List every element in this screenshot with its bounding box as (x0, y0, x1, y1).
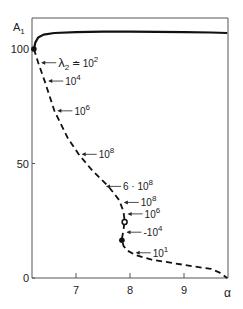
x-axis-label: α (224, 286, 231, 300)
annotation: 108 (82, 146, 115, 160)
annotation: 104 (48, 73, 81, 87)
arrowhead-icon (127, 230, 131, 234)
annotation-sup: 4 (76, 73, 81, 82)
annotation-main: 10 (65, 76, 77, 87)
annotation: -104 (127, 224, 163, 238)
dashed-series-line (34, 49, 227, 278)
chart: 789050100 λ2 ≐ 1021041061086 · 108108106… (0, 0, 243, 309)
annotation: 106 (57, 103, 90, 117)
annotation-label: 104 (65, 73, 81, 87)
annotation: 6 · 108 (106, 178, 154, 192)
annotations-group: λ2 ≐ 1021041061086 · 108108106-104101 (41, 55, 169, 259)
solid-series-line (34, 32, 227, 49)
annotation-sup: 2 (94, 55, 99, 64)
annotation-main: 10 (74, 106, 86, 117)
annotation-label: 108 (99, 146, 115, 160)
annotation-label: 101 (153, 245, 169, 259)
arrowhead-icon (124, 200, 128, 204)
arrowhead-icon (136, 251, 140, 255)
annotation-label: 106 (145, 206, 161, 220)
annotation-main: 10 (153, 248, 165, 259)
annotation-main: -10 (144, 227, 159, 238)
annotation-label: -104 (144, 224, 163, 238)
annotation: 108 (124, 194, 157, 208)
start-point (31, 46, 37, 52)
annotation-label: 6 · 108 (123, 178, 154, 192)
annotation-rest: ≐ 10 (69, 58, 94, 69)
open-circle (122, 219, 127, 224)
arrowhead-icon (41, 61, 45, 65)
annotation-label: 106 (74, 103, 90, 117)
annotation-sup: 6 (156, 206, 161, 215)
annotation: 106 (128, 206, 161, 220)
annotation-sup: 1 (164, 245, 169, 254)
annotation-sup: 8 (110, 146, 115, 155)
annotation-sup: 8 (149, 178, 154, 187)
y-tick-label: 50 (17, 158, 29, 170)
arrowhead-icon (48, 79, 52, 83)
y-axis-label: A1 (13, 21, 25, 36)
annotation-label: 108 (141, 194, 157, 208)
annotation-main: 10 (99, 149, 111, 160)
annotation-main: 10 (145, 209, 157, 220)
x-tick-label: 9 (181, 284, 187, 296)
x-tick-label: 8 (127, 284, 133, 296)
annotation-main: 6 · 10 (123, 181, 149, 192)
y-tick-label: 0 (23, 272, 29, 284)
dot-point (119, 237, 125, 243)
annotation: λ2 ≐ 102 (41, 55, 99, 72)
y-tick-label: 100 (11, 43, 29, 55)
annotation-sup: 4 (158, 224, 163, 233)
arrowhead-icon (57, 109, 61, 113)
arrowhead-icon (106, 184, 110, 188)
annotation-sup: 6 (86, 103, 91, 112)
arrowhead-icon (82, 152, 86, 156)
x-tick-label: 7 (73, 284, 79, 296)
annotation-sup: 8 (152, 194, 157, 203)
annotation-main: 10 (141, 197, 153, 208)
annotation-label: λ2 ≐ 102 (58, 55, 99, 72)
arrowhead-icon (128, 212, 132, 216)
